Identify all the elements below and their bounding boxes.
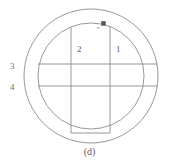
figure-caption: (d) [0, 146, 179, 157]
outer-circle [24, 9, 158, 143]
concentric-circle-diagram [0, 0, 179, 167]
region-label-2: 2 [77, 45, 82, 54]
figure-container: 1 2 3 4 a (d) [0, 0, 179, 167]
inner-circle [38, 23, 144, 129]
region-label-4: 4 [10, 83, 15, 92]
square-marker-icon [102, 22, 106, 26]
region-label-1: 1 [116, 45, 121, 54]
region-label-3: 3 [10, 62, 15, 71]
marker-label: a [97, 25, 99, 30]
